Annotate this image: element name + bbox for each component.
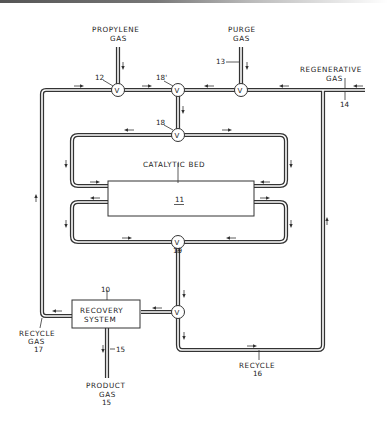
arrow-left-icon	[279, 84, 289, 87]
arrow-down-icon	[64, 220, 67, 228]
label-catalytic-bed: CATALYTIC BED	[143, 160, 205, 169]
arrow-left-icon	[124, 128, 134, 131]
svg-text:RECOVERY: RECOVERY	[80, 306, 123, 315]
valve-12: V	[112, 84, 125, 97]
arrow-left-icon	[260, 180, 270, 183]
arrow-right-icon	[247, 344, 257, 347]
svg-text:16: 16	[253, 369, 263, 378]
arrow-left-icon	[90, 196, 100, 199]
ref-14: 14	[340, 100, 350, 109]
label-recycle: RECYCLE 16	[239, 361, 275, 378]
svg-text:15: 15	[102, 398, 111, 407]
arrow-up-icon	[34, 194, 37, 202]
svg-text:V: V	[175, 309, 180, 317]
svg-text:GAS: GAS	[110, 34, 127, 43]
svg-text:GAS: GAS	[233, 34, 250, 43]
arrow-down-icon	[245, 62, 248, 70]
ref-19: 19	[173, 246, 183, 255]
svg-text:V: V	[175, 87, 180, 95]
ref-15: 15	[116, 345, 125, 354]
svg-text:SYSTEM: SYSTEM	[84, 315, 116, 324]
svg-text:PURGE: PURGE	[228, 25, 256, 34]
label-regenerative-gas: REGENERATIVE GAS	[300, 65, 362, 83]
label-purge-gas: PURGE GAS	[228, 25, 256, 43]
label-recycle-gas: RECYCLE GAS 17	[19, 329, 55, 354]
label-product-gas: PRODUCT GAS 15	[86, 381, 125, 407]
svg-text:11: 11	[175, 195, 184, 204]
valve-18: V	[172, 129, 185, 142]
valve-13: V	[235, 84, 248, 97]
svg-text:V: V	[115, 87, 120, 95]
valve-18-prime: V	[172, 84, 185, 97]
arrow-down-icon	[182, 332, 185, 340]
svg-text:17: 17	[34, 345, 43, 354]
ref-12: 12	[95, 73, 104, 82]
svg-text:PRODUCT: PRODUCT	[86, 381, 125, 390]
arrow-right-icon	[260, 196, 270, 199]
ref-18-prime: 18'	[156, 73, 167, 82]
arrow-down-icon	[181, 106, 184, 114]
arrow-left-icon	[52, 309, 62, 312]
arrow-right-icon	[90, 180, 100, 183]
arrow-right-icon	[222, 128, 232, 131]
ref-18: 18	[156, 118, 166, 127]
ref-13: 13	[216, 57, 225, 66]
arrow-left-icon	[152, 306, 162, 309]
arrow-right-icon	[122, 236, 132, 239]
arrow-left-icon	[353, 84, 363, 87]
label-propylene-gas: PROPYLENE GAS	[92, 25, 139, 43]
arrow-down-icon	[121, 62, 124, 70]
ref-11: 11	[174, 195, 184, 205]
arrow-right-icon	[74, 84, 84, 87]
arrow-down-icon	[289, 220, 292, 228]
svg-text:PROPYLENE: PROPYLENE	[92, 25, 139, 34]
svg-text:GAS: GAS	[326, 74, 343, 83]
arrow-left-icon	[204, 84, 214, 87]
arrow-down-icon	[64, 160, 67, 168]
svg-text:V: V	[238, 87, 243, 95]
arrow-right-icon	[142, 84, 152, 87]
process-flow-diagram: V V V V V V	[0, 0, 388, 425]
valve-recovery: V	[172, 306, 185, 319]
arrow-left-icon	[226, 236, 236, 239]
arrow-down-icon	[182, 290, 185, 298]
svg-text:V: V	[175, 132, 180, 140]
arrow-up-icon	[325, 217, 328, 225]
ref-10: 10	[101, 285, 111, 294]
svg-text:REGENERATIVE: REGENERATIVE	[300, 65, 362, 74]
arrow-down-icon	[101, 345, 104, 353]
arrow-down-icon	[289, 160, 292, 168]
